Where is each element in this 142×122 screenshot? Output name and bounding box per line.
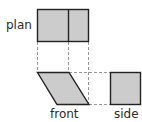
plan-view: [38, 10, 89, 42]
front-label: front: [50, 107, 79, 121]
side-square: [111, 73, 141, 105]
plan-label: plan: [6, 18, 32, 32]
front-parallelogram: [38, 73, 90, 105]
side-label: side: [114, 107, 139, 121]
plan-rectangle: [38, 10, 89, 42]
